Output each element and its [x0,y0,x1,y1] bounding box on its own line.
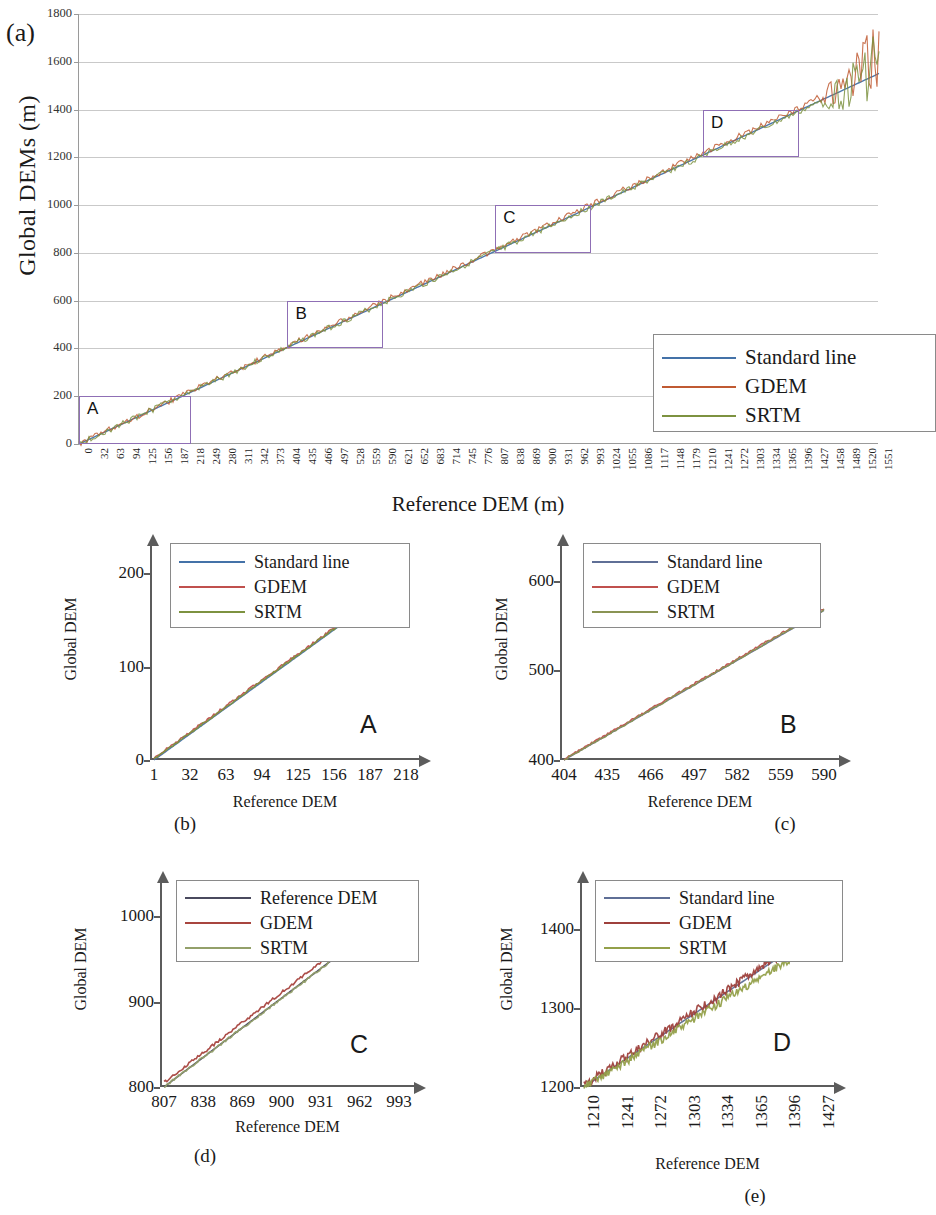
panel-d-y-axis-label: Global DEM [72,914,90,1024]
legend-swatch-srtm [662,415,736,417]
x-tick-label: 280 [226,448,238,465]
legend-item: SRTM [592,599,810,624]
x-tick-label: 559 [370,448,382,465]
x-tick-label: 1148 [674,448,686,470]
panel-a-y-axis-label: Global DEMs (m) [14,66,41,306]
y-tick-mark [554,760,560,762]
legend-label: GDEM [260,914,313,932]
x-tick-label: 156 [321,765,347,785]
x-tick-label: 1210 [706,448,718,470]
x-tick-label: 1427 [819,1095,839,1129]
x-tick-label: 1086 [642,448,654,470]
highlight-box-label: C [503,208,515,228]
y-tick-label: 1600 [47,54,72,69]
x-tick-label: 218 [393,765,419,785]
y-tick-label: 0 [66,436,72,451]
y-tick-label: 0 [136,750,145,770]
legend-label: GDEM [667,578,720,596]
legend-label: SRTM [679,939,727,957]
legend-item: Standard line [604,885,832,910]
legend-label: Standard line [254,553,349,571]
panel-e: 120013001400 121012411272130313341365139… [455,860,880,1215]
x-tick-label: 931 [308,1092,334,1112]
x-tick-label: 621 [402,448,414,465]
y-tick-mark [144,760,150,762]
x-tick-label: 373 [274,448,286,465]
x-tick-label: 94 [254,765,271,785]
y-tick-label: 600 [529,570,555,590]
panel-e-y-axis-label: Global DEM [498,914,516,1024]
x-tick-label: 1334 [718,1095,738,1129]
legend-label: SRTM [254,603,302,621]
x-tick-label: 714 [450,448,462,465]
legend-swatch-gdem [604,922,670,924]
y-tick-mark [154,1087,160,1089]
legend-item: Standard line [179,549,399,574]
legend-label: SRTM [745,405,801,426]
x-tick-label: 1272 [738,448,750,470]
highlight-box-label: B [295,304,306,324]
panel-e-legend: Standard line GDEM SRTM [595,880,843,962]
legend-swatch-standard-line [604,897,670,899]
legend-label: Standard line [745,347,856,368]
x-tick-label: 590 [811,765,837,785]
x-tick-label: 582 [725,765,751,785]
x-tick-label: 745 [466,448,478,465]
x-tick-label: 435 [306,448,318,465]
x-tick-label: 63 [218,765,235,785]
x-tick-label: 838 [190,1092,216,1112]
x-tick-label: 1241 [618,1095,638,1129]
panel-d-legend: Reference DEM GDEM SRTM [176,880,419,962]
x-tick-label: 1427 [818,448,830,470]
x-tick-label: 1241 [722,448,734,470]
legend-swatch-gdem [662,386,736,388]
legend-swatch-srtm [604,947,670,949]
x-tick-label: 466 [322,448,334,465]
y-tick-label: 1000 [47,197,72,212]
x-tick-label: 993 [594,448,606,465]
x-tick-label: 94 [130,448,142,459]
panel-e-caption: (e) [705,1185,805,1207]
legend-item: GDEM [179,574,399,599]
panel-e-x-axis-label: Reference DEM [580,1155,835,1173]
x-tick-label: 311 [242,448,254,464]
legend-swatch-gdem [592,586,658,588]
x-tick-label: 962 [347,1092,373,1112]
panel-a-x-axis-label: Reference DEM (m) [78,492,878,517]
panel-d-zone-letter: C [350,1030,368,1059]
axis-arrow-right-icon [414,1082,426,1094]
legend-swatch-srtm [185,947,251,949]
legend-item: GDEM [662,372,925,401]
highlight-box-label: D [711,113,723,133]
x-tick-label: 652 [418,448,430,465]
x-tick-label: 404 [290,448,302,465]
x-tick-label: 776 [482,448,494,465]
panel-d-x-axis-label: Reference DEM [160,1118,415,1136]
legend-swatch-standard-line [662,357,736,359]
panel-b-legend: Standard line GDEM SRTM [170,543,410,628]
x-tick-label: 1396 [802,448,814,470]
y-tick-label: 400 [53,341,72,356]
x-tick-label: 218 [194,448,206,465]
panel-c-y-axis-label: Global DEM [493,584,511,694]
x-tick-label: 1024 [610,448,622,470]
panel-c-x-axis-label: Reference DEM [560,793,840,811]
x-tick-label: 1458 [834,448,846,470]
legend-swatch-reference-dem [185,897,251,899]
legend-item: GDEM [185,910,408,935]
legend-item: SRTM [185,935,408,960]
y-tick-label: 400 [529,750,555,770]
legend-label: SRTM [260,939,308,957]
x-tick-label: 63 [114,448,126,459]
panel-d-caption: (d) [155,1145,255,1167]
panel-e-zone-letter: D [773,1028,791,1057]
panel-c-caption: (c) [735,813,835,835]
x-tick-label: 1551 [882,448,894,470]
legend-swatch-srtm [592,611,658,613]
panel-a-tag: (a) [6,18,35,48]
x-tick-label: 404 [551,765,577,785]
x-tick-label: 1179 [690,448,702,470]
y-tick-label: 200 [119,563,145,583]
legend-label: GDEM [745,376,807,397]
panel-b-y-axis-label: Global DEM [62,584,80,694]
